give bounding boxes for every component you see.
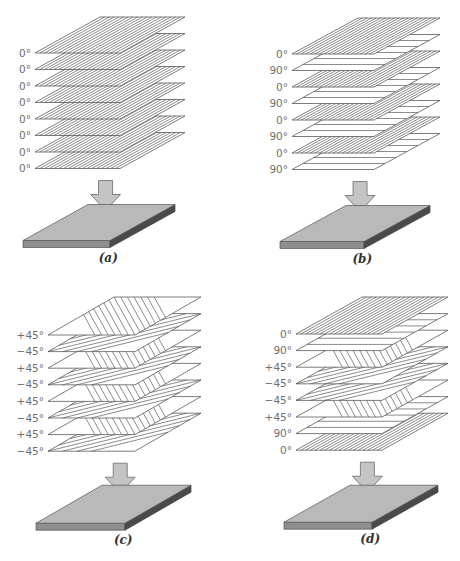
ply-orientation-label: −45° [17, 412, 44, 424]
ply-orientation-label: 90° [273, 344, 292, 356]
ply-labels: +45°−45°+45°−45°+45°−45°+45°−45° [17, 329, 44, 457]
ply-stack [296, 297, 448, 450]
ply-orientation-label: −45° [265, 394, 292, 406]
laminate-plate [280, 206, 430, 249]
ply-orientation-label: 90° [269, 163, 288, 175]
panel-a: 0°0°0°0°0°0°0°0° (a) [19, 17, 185, 265]
ply-orientation-label: 0° [19, 96, 31, 108]
panel-caption: (a) [99, 251, 118, 265]
ply-orientation-label: +45° [17, 329, 44, 341]
panel-caption: (d) [360, 532, 380, 546]
ply-orientation-label: 0° [19, 80, 31, 92]
ply-orientation-label: +45° [17, 362, 44, 374]
ply-orientation-label: −45° [17, 445, 44, 457]
panel-caption: (c) [114, 533, 133, 547]
laminate-plate [284, 485, 438, 529]
ply-orientation-label: 90° [269, 64, 288, 76]
ply-orientation-label: 0° [19, 129, 31, 141]
ply-orientation-label: 0° [276, 48, 288, 60]
laminate-plate [36, 485, 191, 530]
ply-labels: 0°90°0°90°0°90°0°90° [269, 48, 288, 176]
ply-orientation-label: 0° [280, 328, 292, 340]
ply-orientation-label: +45° [17, 395, 44, 407]
panel-caption: (b) [352, 252, 372, 266]
ply-orientation-label: 0° [280, 444, 292, 456]
ply-labels: 0°0°0°0°0°0°0°0° [19, 47, 31, 175]
ply-orientation-label: 0° [19, 63, 31, 75]
ply-stack [35, 17, 185, 169]
ply-orientation-label: 0° [276, 81, 288, 93]
ply-orientation-label: +45° [265, 361, 292, 373]
ply-stack [48, 297, 201, 451]
ply-orientation-label: 90° [273, 427, 292, 439]
ply-orientation-label: 0° [276, 147, 288, 159]
ply-orientation-label: −45° [17, 345, 44, 357]
ply-orientation-label: −45° [17, 378, 44, 390]
ply-orientation-label: 90° [269, 130, 288, 142]
ply-stack [292, 18, 440, 170]
ply-orientation-label: 0° [19, 47, 31, 59]
panel-c: +45°−45°+45°−45°+45°−45°+45°−45° (c) [17, 297, 201, 547]
ply-orientation-label: 0° [276, 114, 288, 126]
ply-orientation-label: +45° [265, 411, 292, 423]
panel-b: 0°90°0°90°0°90°0°90° (b) [269, 18, 440, 266]
ply-orientation-label: 0° [19, 162, 31, 174]
ply-orientation-label: −45° [265, 377, 292, 389]
ply-orientation-label: 0° [19, 146, 31, 158]
ply-orientation-label: 0° [19, 113, 31, 125]
ply-labels: 0°90°+45°−45°−45°+45°90°0° [265, 328, 292, 456]
laminate-layup-figure: 0°0°0°0°0°0°0°0° (a) 0°90°0°90°0°90°0°90… [0, 0, 460, 561]
ply-orientation-label: 90° [269, 97, 288, 109]
laminate-plate [23, 205, 175, 248]
ply-orientation-label: +45° [17, 428, 44, 440]
panel-d: 0°90°+45°−45°−45°+45°90°0° (d) [265, 297, 448, 546]
